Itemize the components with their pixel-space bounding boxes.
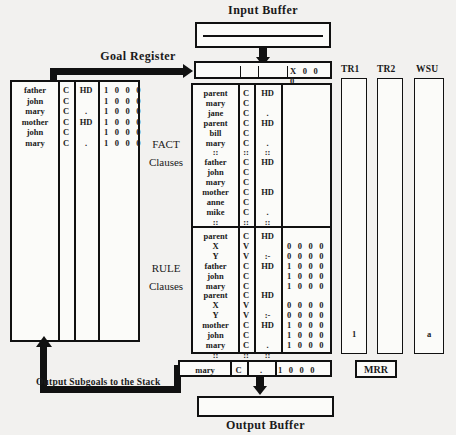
row-term: :: bbox=[193, 350, 238, 360]
row-mark: :- bbox=[254, 251, 281, 261]
goal-register-divider-1 bbox=[240, 66, 241, 77]
row-mark: HD bbox=[254, 118, 281, 128]
row-bits: 1 0 0 0 bbox=[101, 117, 138, 127]
row-bits: 1 0 0 0 bbox=[284, 271, 330, 281]
row-mark: :: bbox=[254, 147, 281, 157]
row-mark: HD bbox=[254, 187, 281, 197]
row-mark bbox=[254, 330, 281, 340]
row-type: :: bbox=[238, 350, 254, 360]
diagram-canvas: Input Buffer Goal Register X 0 0 0 TR1 T… bbox=[0, 0, 456, 435]
wsu-register[interactable]: a bbox=[414, 78, 444, 354]
rule-label: RULE bbox=[142, 262, 190, 274]
row-mark bbox=[74, 127, 98, 137]
input-buffer-box[interactable] bbox=[195, 22, 331, 48]
row-term: mike bbox=[193, 207, 238, 217]
rule-clauses-label: Clauses bbox=[142, 280, 190, 292]
row-type: V bbox=[238, 251, 254, 261]
row-mark: . bbox=[254, 207, 281, 217]
row-bits: 0 0 0 0 bbox=[284, 310, 330, 320]
row-bits: 1 0 0 0 bbox=[101, 96, 138, 106]
goal-register-box[interactable]: X 0 0 0 bbox=[194, 61, 332, 79]
row-type: C bbox=[238, 320, 254, 330]
row-term: parent bbox=[193, 290, 238, 300]
tr1-label: TR1 bbox=[341, 64, 360, 74]
mrr-label: MRR bbox=[357, 364, 395, 375]
row-term: mary bbox=[193, 98, 238, 108]
row-mark bbox=[254, 271, 281, 281]
row-term: mother bbox=[193, 187, 238, 197]
row-term: john bbox=[12, 127, 58, 137]
row-term: father bbox=[193, 261, 238, 271]
row-term: mary bbox=[193, 177, 238, 187]
wsu-value: a bbox=[415, 329, 443, 339]
row-term: parent bbox=[193, 118, 238, 128]
row-type: :: bbox=[238, 217, 254, 227]
goal-register-divider-2 bbox=[258, 66, 259, 77]
row-term: john bbox=[193, 167, 238, 177]
row-mark: HD bbox=[254, 320, 281, 330]
row-bits: 0 0 0 0 bbox=[284, 300, 330, 310]
tr1-register[interactable]: 1 bbox=[341, 78, 367, 354]
row-term: mary bbox=[12, 106, 58, 116]
output-row-mark: . bbox=[247, 365, 275, 375]
clause-col-divider-3 bbox=[281, 85, 283, 352]
arrow-output-head bbox=[253, 386, 267, 395]
row-mark: HD bbox=[254, 261, 281, 271]
row-term: Y bbox=[193, 251, 238, 261]
row-term: john bbox=[193, 330, 238, 340]
row-type: C bbox=[238, 330, 254, 340]
row-mark bbox=[254, 197, 281, 207]
row-mark: HD bbox=[74, 85, 98, 95]
goal-arrow-horizontal bbox=[50, 68, 185, 75]
row-mark: . bbox=[74, 138, 98, 148]
tr1-value: 1 bbox=[342, 329, 366, 339]
row-term: Y bbox=[193, 310, 238, 320]
row-bits: 1 0 0 0 bbox=[284, 281, 330, 291]
row-mark bbox=[254, 128, 281, 138]
row-bits: 0 0 0 0 bbox=[284, 241, 330, 251]
row-type: V bbox=[238, 241, 254, 251]
row-mark bbox=[74, 96, 98, 106]
input-buffer-content-line bbox=[203, 35, 323, 37]
row-mark: . bbox=[74, 106, 98, 116]
output-buffer-title: Output Buffer bbox=[193, 418, 338, 433]
tr2-register[interactable] bbox=[377, 78, 403, 354]
row-term: john bbox=[193, 271, 238, 281]
output-row-term: mary bbox=[180, 365, 230, 375]
row-type: C bbox=[238, 88, 254, 98]
fact-label: FACT bbox=[142, 138, 190, 150]
row-mark: HD bbox=[254, 231, 281, 241]
tr2-label: TR2 bbox=[377, 64, 396, 74]
row-bits: 1 0 0 0 bbox=[101, 127, 138, 137]
row-type: C bbox=[238, 98, 254, 108]
goal-register-label: Goal Register bbox=[78, 49, 198, 64]
row-mark bbox=[254, 177, 281, 187]
clause-store-panel[interactable]: parentCHDmaryCjaneC.parentCHDbillCmaryC.… bbox=[191, 83, 332, 354]
mrr-register[interactable]: MRR bbox=[355, 360, 397, 378]
row-type: C bbox=[238, 207, 254, 217]
row-term: mary bbox=[193, 281, 238, 291]
output-subgoals-label: Output Subgoals to the Stack bbox=[36, 377, 160, 387]
fact-clauses-label: Clauses bbox=[142, 156, 190, 168]
row-type: C bbox=[58, 96, 74, 106]
stack-panel[interactable]: fatherCHD1 0 0 0johnC1 0 0 0maryC.1 0 0 … bbox=[10, 80, 140, 342]
output-row-type: C bbox=[230, 365, 247, 375]
row-type: C bbox=[58, 127, 74, 137]
wsu-label: WSU bbox=[416, 64, 438, 74]
row-mark bbox=[254, 167, 281, 177]
output-subgoal-row[interactable]: mary C . 1 0 0 0 bbox=[178, 360, 332, 377]
output-buffer-box[interactable] bbox=[197, 396, 334, 417]
row-type: C bbox=[238, 197, 254, 207]
row-term: anne bbox=[193, 197, 238, 207]
row-mark: HD bbox=[254, 290, 281, 300]
row-mark: HD bbox=[254, 157, 281, 167]
goal-register-divider-3 bbox=[287, 66, 288, 77]
row-mark: :: bbox=[254, 217, 281, 227]
row-bits: 1 0 0 0 bbox=[284, 261, 330, 271]
row-term: X bbox=[193, 300, 238, 310]
row-mark: . bbox=[254, 108, 281, 118]
row-mark bbox=[254, 241, 281, 251]
row-type: C bbox=[238, 157, 254, 167]
subgoal-arrow-horizontal bbox=[40, 386, 180, 393]
row-term: parent bbox=[193, 231, 238, 241]
